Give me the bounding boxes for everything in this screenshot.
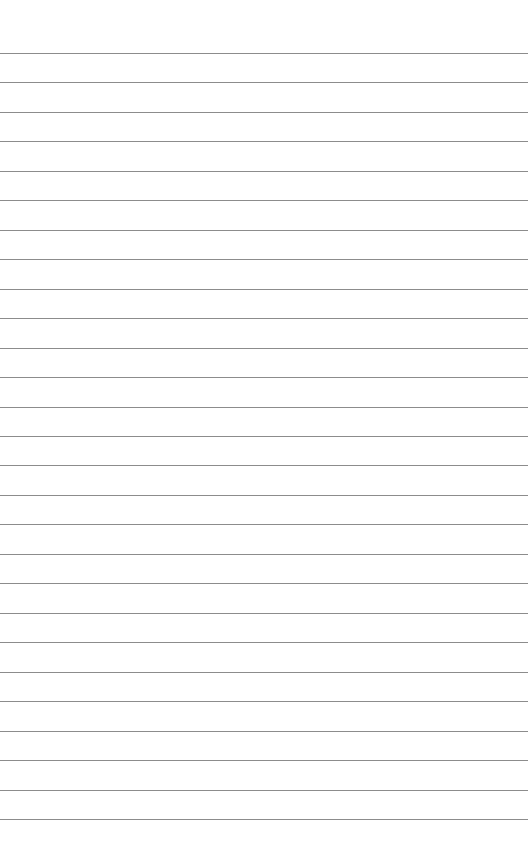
ruled-line <box>0 760 528 761</box>
ruled-line <box>0 112 528 113</box>
lined-paper-page <box>0 0 528 868</box>
ruled-line <box>0 701 528 702</box>
ruled-line <box>0 259 528 260</box>
ruled-line <box>0 819 528 820</box>
ruled-line <box>0 407 528 408</box>
ruled-line <box>0 348 528 349</box>
ruled-line <box>0 524 528 525</box>
ruled-line <box>0 377 528 378</box>
ruled-line <box>0 230 528 231</box>
ruled-line <box>0 171 528 172</box>
ruled-line <box>0 465 528 466</box>
ruled-line <box>0 790 528 791</box>
ruled-line <box>0 436 528 437</box>
ruled-line <box>0 53 528 54</box>
ruled-line <box>0 495 528 496</box>
ruled-line <box>0 141 528 142</box>
ruled-line <box>0 200 528 201</box>
ruled-line <box>0 613 528 614</box>
ruled-line <box>0 289 528 290</box>
ruled-line <box>0 583 528 584</box>
ruled-line <box>0 554 528 555</box>
ruled-line <box>0 672 528 673</box>
ruled-line <box>0 642 528 643</box>
ruled-line <box>0 82 528 83</box>
ruled-line <box>0 318 528 319</box>
ruled-line <box>0 731 528 732</box>
